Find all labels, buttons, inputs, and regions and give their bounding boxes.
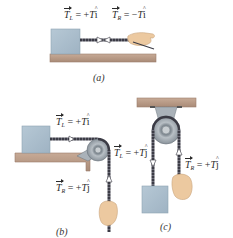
- panel-b: [15, 126, 117, 232]
- label-a-tension-left: TL = +Ti: [64, 10, 98, 21]
- ceiling-c: [137, 98, 196, 107]
- label-c-tension-right: TR = +Tj: [185, 160, 219, 171]
- label-a-tension-right: TR = −Ti: [112, 10, 146, 21]
- tension-arrow-br: [106, 175, 112, 182]
- rope-c-left: [152, 130, 155, 186]
- block-a: [51, 29, 80, 54]
- tension-arrows-a: [97, 37, 110, 43]
- tension-arrow-bl: [69, 136, 74, 142]
- label-c-tension-left: TL = +Tj: [114, 148, 148, 159]
- table-surface-a: [50, 54, 156, 62]
- hand-icon-c: [172, 174, 192, 199]
- hand-icon-a: [128, 33, 155, 49]
- label-b-tension-left: TL = +Ti: [56, 117, 90, 128]
- tension-diagram: [0, 0, 233, 238]
- tension-arrow-cl: [150, 160, 156, 167]
- panel-a: [50, 29, 156, 62]
- block-b: [22, 126, 50, 153]
- block-c: [142, 186, 168, 213]
- caption-b: (b): [56, 226, 68, 237]
- hand-icon-b: [99, 201, 117, 225]
- label-a-left-symbol: T: [64, 10, 70, 20]
- label-b-tension-right: TR = +Tj: [56, 183, 90, 194]
- caption-a: (a): [93, 72, 105, 83]
- caption-c: (c): [160, 221, 171, 232]
- tension-arrow-cr: [176, 148, 182, 155]
